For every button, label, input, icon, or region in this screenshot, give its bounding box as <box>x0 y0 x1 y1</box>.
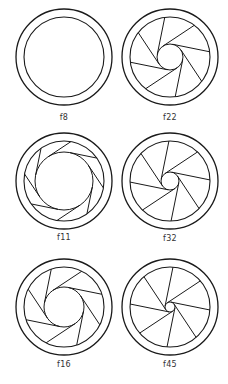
inner-ring <box>130 17 210 97</box>
inner-ring <box>130 267 210 347</box>
blade-edge <box>174 304 196 337</box>
outer-ring <box>16 9 112 105</box>
aperture-opening <box>161 172 179 190</box>
blade-edge <box>144 277 166 310</box>
inner-ring <box>24 141 104 221</box>
aperture-diagram <box>0 0 228 384</box>
blade-edge <box>138 33 159 65</box>
blade-edge <box>48 142 71 157</box>
outer-ring <box>122 133 218 229</box>
blade-edge <box>141 153 163 185</box>
iris-f32 <box>122 133 218 229</box>
inner-ring <box>130 141 210 221</box>
blade-edge <box>88 165 103 188</box>
blade-edge <box>175 60 183 97</box>
aperture-opening <box>44 287 84 327</box>
blade-edge <box>146 68 178 89</box>
label-f8: f8 <box>34 113 94 122</box>
blade-edge <box>130 62 167 70</box>
blade-edge <box>26 320 60 327</box>
blade-edge <box>68 287 102 294</box>
label-f32: f32 <box>140 234 200 243</box>
blade-edge <box>181 50 202 82</box>
blade-edge <box>178 176 200 208</box>
blade-edge <box>165 152 197 174</box>
outer-ring <box>16 133 112 229</box>
label-f22: f22 <box>140 113 200 122</box>
blade-edge <box>157 17 165 54</box>
blade-edge <box>77 311 84 345</box>
label-f16: f16 <box>34 360 94 369</box>
blade-edge <box>57 205 80 220</box>
inner-ring <box>24 17 104 97</box>
outer-ring <box>122 9 218 105</box>
blade-edge <box>44 269 51 303</box>
blade-edge <box>163 25 195 46</box>
iris-f11 <box>16 133 112 229</box>
iris-f16 <box>16 259 112 355</box>
blade-edge <box>142 189 174 211</box>
iris-f8 <box>16 9 112 105</box>
iris-f45 <box>122 259 218 355</box>
outer-ring <box>16 259 112 355</box>
blade-edge <box>173 44 210 52</box>
outer-ring <box>122 259 218 355</box>
aperture-opening <box>35 152 93 210</box>
aperture-opening <box>157 44 183 70</box>
label-f45: f45 <box>140 360 200 369</box>
blade-edge <box>25 174 40 197</box>
inner-ring <box>24 267 104 347</box>
blade-edge <box>140 311 173 333</box>
iris-f22 <box>122 9 218 105</box>
aperture-opening <box>165 302 175 312</box>
label-f11: f11 <box>34 233 94 242</box>
blade-edge <box>167 281 200 303</box>
